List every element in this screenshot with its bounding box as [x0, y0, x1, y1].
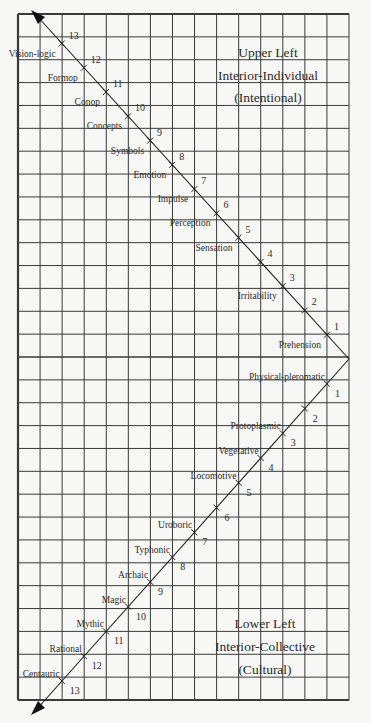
lower-stage-label: Archaic — [118, 570, 148, 580]
lower-stage-number: 6 — [224, 512, 229, 523]
upper-stage-number: 12 — [91, 54, 101, 65]
lower-stage-label: Typhonic — [134, 545, 170, 555]
upper-stage-number: 7 — [201, 175, 206, 186]
lower-stage-label: Centauric — [23, 669, 60, 679]
quadrant-diagram: Upper Left Interior-Individual (Intentio… — [0, 0, 371, 723]
lower-stage-label: Vegetative — [219, 446, 259, 456]
lower-stage-number: 13 — [70, 685, 80, 696]
lower-stage-number: 1 — [335, 388, 340, 399]
upper-stage-label: Symbols — [111, 146, 145, 156]
lower-stage-number: 11 — [114, 635, 124, 646]
lower-stage-label: Mythic — [76, 619, 103, 629]
upper-quadrant-line3: (Intentional) — [234, 90, 301, 105]
upper-stage-label: Conop — [75, 97, 101, 107]
upper-stage-label: Vision-logic — [9, 49, 56, 59]
upper-stage-number: 13 — [69, 30, 79, 41]
lower-stage-label: Locomotive — [191, 471, 237, 481]
lower-quadrant-line1: Lower Left — [234, 616, 295, 631]
upper-stage-number: 5 — [246, 224, 251, 235]
lower-stage-number: 3 — [291, 437, 296, 448]
lower-stage-label: Physical-pleromatic — [249, 372, 325, 382]
upper-quadrant-line2: Interior-Individual — [218, 68, 318, 83]
upper-stage-number: 8 — [179, 151, 184, 162]
upper-stage-label: Formop — [48, 73, 78, 83]
upper-stage-number: 2 — [312, 296, 317, 307]
upper-stage-number: 4 — [268, 248, 273, 259]
lower-quadrant-line2: Interior-Collective — [215, 639, 315, 654]
upper-stage-number: 10 — [135, 102, 145, 113]
lower-stage-number: 10 — [136, 611, 146, 622]
background — [0, 0, 371, 723]
upper-stage-number: 6 — [223, 199, 228, 210]
lower-stage-number: 5 — [247, 487, 252, 498]
upper-stage-number: 11 — [113, 78, 123, 89]
upper-stage-number: 9 — [157, 127, 162, 138]
upper-stage-number: 1 — [334, 321, 339, 332]
lower-stage-number: 2 — [313, 413, 318, 424]
upper-stage-label: Perception — [170, 218, 211, 228]
lower-stage-label: Rational — [50, 644, 83, 654]
lower-stage-label: Protoplasmic — [231, 421, 281, 431]
lower-stage-number: 4 — [269, 462, 274, 473]
upper-stage-number: 3 — [290, 272, 295, 283]
upper-stage-label: Irritability — [238, 291, 277, 301]
lower-stage-number: 12 — [92, 660, 102, 671]
lower-stage-label: Uroboric — [158, 520, 192, 530]
upper-quadrant-line1: Upper Left — [238, 45, 298, 60]
lower-stage-number: 7 — [202, 536, 207, 547]
upper-stage-label: Impulse — [158, 194, 189, 204]
lower-stage-number: 9 — [158, 586, 163, 597]
upper-stage-label: Emotion — [133, 170, 166, 180]
lower-quadrant-line3: (Cultural) — [238, 662, 291, 677]
upper-stage-label: Sensation — [196, 243, 233, 253]
lower-stage-label: Magic — [102, 595, 126, 605]
upper-stage-label: Concepts — [87, 121, 123, 131]
lower-stage-number: 8 — [180, 561, 185, 572]
upper-stage-label: Prehension — [279, 340, 321, 350]
